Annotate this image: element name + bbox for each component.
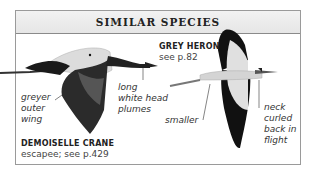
species-ref-grey-heron: see p.82 bbox=[159, 52, 198, 62]
species-ref-demoiselle-crane: escapee; see p.429 bbox=[21, 149, 109, 159]
species-name-demoiselle-crane: DEMOISELLE CRANE bbox=[21, 139, 114, 148]
annotation-greyer-outer-wing: greyer outer wing bbox=[21, 92, 51, 125]
annotation-long-white-head-plumes: long white head plumes bbox=[118, 82, 168, 115]
annotation-smaller: smaller bbox=[165, 115, 198, 126]
species-name-grey-heron: GREY HERON bbox=[159, 42, 220, 51]
annotation-neck-curled-back: neck curled back in flight bbox=[264, 102, 296, 146]
